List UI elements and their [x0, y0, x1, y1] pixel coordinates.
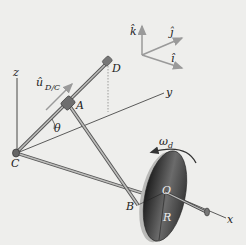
label-D: D	[111, 62, 121, 75]
pivot-C	[13, 149, 20, 157]
j-hat-label: ĵ	[168, 26, 174, 39]
label-A: A	[75, 99, 84, 112]
k-hat-label: k̂	[130, 24, 137, 38]
y-axis	[17, 93, 164, 153]
unit-vector-triad: k̂ ĵ î	[130, 24, 182, 68]
omega-subscript: d	[168, 141, 173, 150]
x-axis-label: x	[227, 213, 234, 226]
i-hat-label: î	[171, 52, 176, 65]
diagram-canvas: k̂ ĵ î z y x	[0, 0, 246, 245]
label-O: O	[162, 184, 171, 197]
label-C: C	[11, 157, 20, 170]
y-axis-label: y	[165, 86, 173, 99]
label-unit-vector: û D/C	[36, 76, 60, 92]
omega-symbol: ω	[159, 135, 168, 148]
unit-vector-symbol: û	[36, 76, 43, 89]
link-AB	[69, 105, 138, 205]
i-hat-arrow	[142, 55, 182, 68]
label-theta: θ	[54, 122, 61, 135]
label-B: B	[125, 200, 134, 213]
unit-vector-subscript: D/C	[44, 83, 60, 92]
label-omega: ω d	[159, 135, 173, 150]
rod-C-to-disk	[16, 153, 142, 193]
label-R: R	[162, 211, 171, 224]
j-hat-arrow	[142, 38, 182, 55]
mechanism-diagram: k̂ ĵ î z y x	[0, 0, 246, 245]
axle-end-cap	[205, 208, 210, 216]
z-axis-label: z	[12, 66, 19, 79]
